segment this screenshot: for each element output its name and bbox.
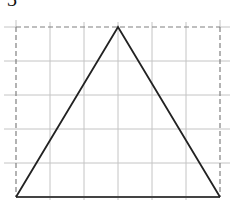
triangle-grid-diagram (0, 0, 230, 200)
grid-lines (4, 20, 230, 200)
